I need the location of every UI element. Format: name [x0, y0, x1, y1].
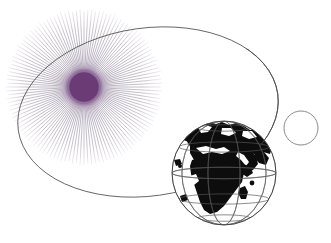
earth-globe [172, 121, 276, 225]
sun [58, 61, 110, 113]
diagram-canvas [0, 0, 331, 243]
island-a [250, 181, 255, 186]
orbital-diagram-svg [0, 0, 331, 243]
background [0, 0, 331, 243]
sun-disc [70, 73, 99, 102]
